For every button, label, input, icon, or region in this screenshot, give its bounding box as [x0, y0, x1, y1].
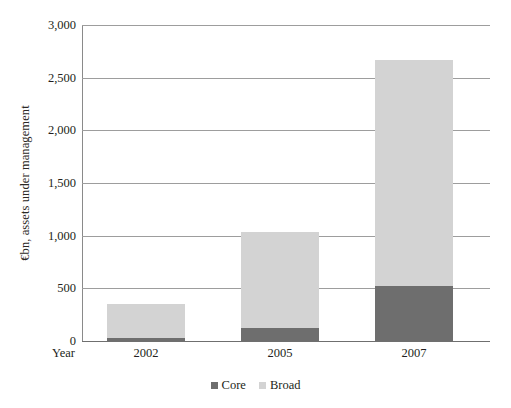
bar-segment-broad: [241, 232, 319, 329]
gridline-0: [82, 341, 490, 342]
gridline-3000: [82, 25, 490, 26]
bar-2002[interactable]: [107, 304, 185, 341]
bar-segment-core: [375, 286, 453, 341]
y-tick-label: 2,500: [30, 70, 76, 85]
legend-item-broad[interactable]: Broad: [259, 378, 301, 393]
y-tick-label: 1,000: [30, 228, 76, 243]
y-axis-tick-labels: 3,000 2,500 2,000 1,500 1,000 500 0: [24, 25, 76, 341]
legend-swatch-core-icon: [211, 382, 218, 389]
x-tick-label-2005: 2005: [268, 346, 293, 361]
x-axis-tick-labels: Year 2002 2005 2007: [0, 346, 511, 366]
plot-area: [82, 25, 490, 341]
x-tick-label-2007: 2007: [402, 346, 427, 361]
bar-segment-broad: [375, 60, 453, 286]
bar-2005[interactable]: [241, 232, 319, 342]
bar-segment-broad: [107, 304, 185, 338]
stacked-bar-chart: €bn, assets under management 3,000 2,500…: [0, 0, 511, 408]
legend-label-broad: Broad: [270, 378, 301, 393]
bar-segment-core: [241, 328, 319, 341]
y-tick-label: 2,000: [30, 123, 76, 138]
bar-2007[interactable]: [375, 60, 453, 341]
y-tick-label: 500: [30, 281, 76, 296]
y-tick-label: 1,500: [30, 176, 76, 191]
y-tick-label: 3,000: [30, 18, 76, 33]
legend-label-core: Core: [222, 378, 246, 393]
x-tick-label-2002: 2002: [134, 346, 159, 361]
x-axis-title: Year: [52, 346, 75, 361]
legend-item-core[interactable]: Core: [211, 378, 246, 393]
bar-segment-core: [107, 338, 185, 341]
chart-legend: Core Broad: [0, 376, 511, 394]
legend-swatch-broad-icon: [259, 382, 266, 389]
